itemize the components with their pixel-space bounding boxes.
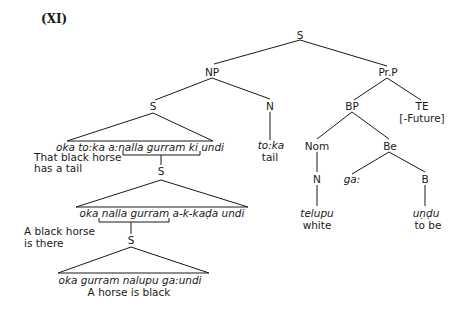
node-te: TE (415, 101, 428, 112)
leaf-toka-gloss: tail (262, 152, 278, 163)
node-n: N (266, 101, 274, 112)
leaf-undu-gloss: to be (414, 220, 441, 231)
clause-middle-text: oka nalla gurram a-k-kaḍa undi (80, 208, 245, 219)
node-s-left: S (150, 101, 157, 112)
clause-top-gloss-2: has a tail (34, 163, 82, 174)
node-root-s: S (297, 30, 304, 41)
clause-bottom-text: oka gurram nalupu ga:undi (58, 275, 201, 286)
te-feature-label: [-Future] (399, 113, 444, 124)
node-s-middle: S (158, 166, 165, 177)
clause-middle-gloss-1: A black horse (24, 226, 95, 237)
leaf-undu: uṇḍu (413, 208, 440, 219)
node-np: NP (205, 67, 219, 78)
leaf-telupu-gloss: white (303, 220, 332, 231)
node-pr-p: Pr.P (378, 67, 397, 78)
leaf-gaa: ga: (344, 174, 361, 185)
clause-middle-gloss-2: is there (24, 238, 64, 249)
node-n-under-nom: N (313, 174, 321, 185)
leaf-toka: to:ka (258, 140, 285, 151)
clause-bottom-gloss: A horse is black (88, 287, 171, 298)
node-b: B (421, 174, 428, 185)
node-be: Be (383, 141, 397, 152)
example-number: (XI) (41, 12, 67, 26)
clause-top-gloss-1: That black horse (34, 152, 122, 163)
node-s-lower: S (128, 235, 135, 246)
node-bp: BP (345, 101, 359, 112)
leaf-telupu: telupu (300, 208, 333, 219)
node-nom: Nom (305, 141, 330, 152)
syntax-tree-diagram: (XI) S NP Pr.P S N BP TE [-Future] Nom B… (0, 0, 470, 315)
